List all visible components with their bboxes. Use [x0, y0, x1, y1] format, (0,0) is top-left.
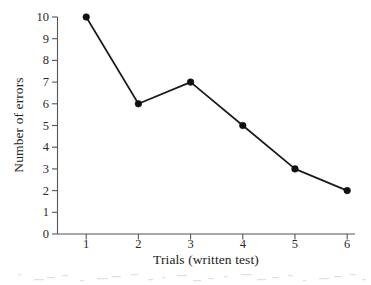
data-point	[83, 14, 90, 21]
data-point	[292, 166, 299, 173]
chart-figure: Number of errors 012345678910 123456 Tri…	[0, 0, 371, 285]
data-series-line	[86, 17, 347, 191]
x-tick-label: 1	[71, 238, 101, 251]
x-tick-label: 2	[123, 238, 153, 251]
data-point	[187, 79, 194, 86]
x-tick-label: 6	[332, 238, 362, 251]
x-axis-label: Trials (written test)	[57, 252, 355, 268]
data-point	[135, 101, 142, 108]
data-point	[344, 187, 351, 194]
x-tick-label: 5	[280, 238, 310, 251]
y-axis-ticks	[52, 17, 58, 234]
x-tick-label: 4	[228, 238, 258, 251]
data-point	[239, 122, 246, 129]
x-tick-label: 3	[176, 238, 206, 251]
axes	[58, 17, 356, 234]
